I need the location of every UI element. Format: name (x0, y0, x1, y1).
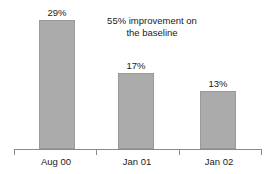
bar-value-1: 29% (47, 7, 66, 18)
bar-value-3: 13% (208, 78, 227, 89)
x-axis-line (14, 149, 262, 150)
bar-group-3: 13% (200, 0, 236, 149)
bar-jan-01[interactable] (118, 73, 154, 149)
category-label-aug-00: Aug 00 (41, 156, 71, 168)
axis-tick-start (14, 149, 15, 155)
plot-area: 29% 17% 13% (0, 0, 276, 149)
bar-chart: 55% improvement on the baseline 29% 17% … (0, 0, 276, 174)
bar-group-2: 17% (118, 0, 154, 149)
bar-group-1: 29% (39, 0, 75, 149)
axis-tick-1 (96, 149, 97, 155)
axis-tick-end (261, 149, 262, 155)
category-label-jan-01: Jan 01 (123, 156, 152, 168)
axis-tick-2 (179, 149, 180, 155)
bar-aug-00[interactable] (39, 20, 75, 149)
bar-value-2: 17% (126, 60, 145, 71)
category-label-jan-02: Jan 02 (205, 156, 234, 168)
bar-jan-02[interactable] (200, 91, 236, 149)
